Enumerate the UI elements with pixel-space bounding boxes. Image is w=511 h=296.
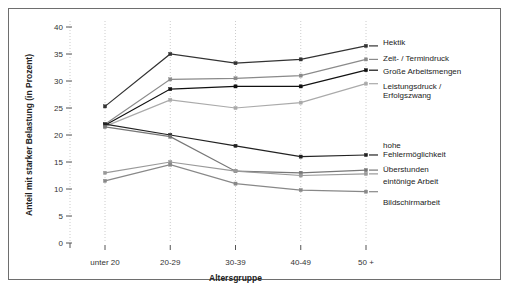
data-point-marker [364, 169, 367, 172]
legend-label-3: Leistungsdruck / [383, 82, 442, 91]
legend-label-2: Große Arbeitsmengen [383, 67, 461, 76]
chart-page: 0510152025303540unter 2020-2930-3940-495… [0, 0, 511, 296]
data-point-marker [299, 174, 302, 177]
x-category-label: unter 20 [90, 258, 120, 267]
data-point-marker [103, 171, 106, 174]
legend-label-6: eintönige Arbeit [383, 177, 439, 186]
data-point-marker [234, 170, 237, 173]
data-point-marker [299, 58, 302, 61]
data-point-marker [103, 125, 106, 128]
data-point-marker [299, 85, 302, 88]
legend-label-3: Erfolgszwang [383, 91, 431, 100]
y-tick-label: 20 [54, 131, 63, 140]
data-point-marker [364, 190, 367, 193]
legend-label-0: Hektik [383, 38, 406, 47]
x-category-label: 50 + [358, 258, 374, 267]
data-point-marker [299, 101, 302, 104]
chart-canvas: 0510152025303540unter 2020-2930-3940-495… [0, 0, 511, 296]
x-axis-title: Altersgruppe [209, 273, 262, 283]
data-point-marker [234, 182, 237, 185]
x-category-label: 20-29 [160, 258, 181, 267]
data-point-marker [234, 62, 237, 65]
data-point-marker [169, 88, 172, 91]
data-point-marker [364, 44, 367, 47]
x-category-label: 30-39 [225, 258, 246, 267]
line-chart: 0510152025303540unter 2020-2930-3940-495… [0, 0, 511, 296]
legend-label-4: Fehlermöglichkeit [383, 150, 446, 159]
data-point-marker [299, 188, 302, 191]
data-point-marker [299, 155, 302, 158]
data-point-marker [234, 85, 237, 88]
data-point-marker [364, 153, 367, 156]
y-tick-label: 35 [54, 50, 63, 59]
data-point-marker [169, 135, 172, 138]
y-tick-label: 30 [54, 77, 63, 86]
y-tick-label: 0 [59, 239, 64, 248]
data-point-marker [364, 172, 367, 175]
x-category-label: 40-49 [291, 258, 312, 267]
data-point-marker [364, 82, 367, 85]
data-point-marker [234, 106, 237, 109]
legend-label-1: Zeit- / Termindruck [383, 54, 450, 63]
data-point-marker [299, 74, 302, 77]
legend-label-4: hohe [383, 141, 401, 150]
data-point-marker [364, 58, 367, 61]
data-point-marker [169, 52, 172, 55]
data-point-marker [234, 77, 237, 80]
y-tick-label: 15 [54, 158, 63, 167]
data-point-marker [169, 98, 172, 101]
data-point-marker [364, 69, 367, 72]
legend-label-5: Überstunden [383, 165, 429, 174]
y-tick-label: 10 [54, 185, 63, 194]
legend-label-7: Bildschirmarbeit [383, 198, 441, 207]
data-point-marker [169, 163, 172, 166]
data-point-marker [234, 144, 237, 147]
y-tick-label: 5 [59, 212, 64, 221]
data-point-marker [103, 179, 106, 182]
y-tick-label: 25 [54, 104, 63, 113]
y-tick-label: 40 [54, 23, 63, 32]
data-point-marker [103, 105, 106, 108]
y-axis-title: Anteil mit starker Belastung (in Prozent… [24, 54, 34, 216]
data-point-marker [169, 78, 172, 81]
